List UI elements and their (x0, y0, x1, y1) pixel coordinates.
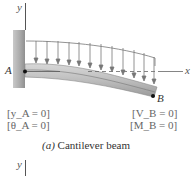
distributed-load-envelope (26, 41, 155, 58)
bottom-y-axis-label: y (17, 158, 22, 170)
point-b-label: B (157, 92, 164, 104)
point-a-dot (23, 70, 27, 74)
bc-v-b: [V_B = 0] (132, 107, 177, 119)
point-a-label: A (5, 64, 12, 76)
bc-m-b: [M_B = 0] (130, 119, 177, 131)
fixed-wall (13, 30, 25, 88)
y-axis-label: y (17, 1, 22, 13)
beam (25, 64, 157, 97)
x-axis-label: x (185, 64, 190, 76)
figure-caption: (a) Cantilever beam (42, 139, 130, 151)
caption-prefix: (a) (42, 139, 55, 151)
caption-text: Cantilever beam (58, 139, 130, 151)
bc-theta-a: [θ_A = 0] (7, 119, 50, 131)
point-b-dot (151, 94, 155, 98)
bc-y-a: [y_A = 0] (7, 107, 50, 119)
